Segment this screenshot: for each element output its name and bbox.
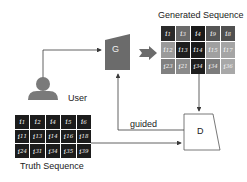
- sequence-cell: i8: [221, 26, 235, 41]
- sequence-cell: i9: [206, 26, 220, 41]
- sequence-cell: i4: [191, 26, 205, 41]
- sequence-cell: i1: [161, 26, 175, 41]
- sequence-cell: i12: [161, 42, 175, 57]
- sequence-cell: i16: [61, 130, 75, 144]
- sequence-cell: i35: [61, 144, 75, 158]
- sequence-cell: i24: [15, 144, 29, 158]
- sequence-cell: i34: [46, 144, 60, 158]
- user-label: User: [68, 93, 87, 103]
- discriminator-label: D: [197, 126, 204, 136]
- sequence-cell: i6: [77, 115, 91, 129]
- user-icon: [28, 77, 58, 100]
- sequence-cell: i39: [77, 144, 91, 158]
- guided-label: guided: [130, 119, 157, 129]
- sequence-cell: i1: [15, 115, 29, 129]
- user-to-generator-arrow: [43, 50, 101, 80]
- sequence-cell: i15: [206, 42, 220, 57]
- sequence-cell: i17: [221, 42, 235, 57]
- truth-sequence-title: Truth Sequence: [20, 161, 84, 171]
- generated-sequence-title: Generated Sequence: [158, 10, 244, 20]
- sequence-cell: i14: [191, 42, 205, 57]
- sequence-cell: i21: [176, 59, 190, 74]
- sequence-cell: i5: [61, 115, 75, 129]
- generated-sequence-grid: i1i3i4i9i8i12i13i14i15i17i23i21i34i34i36: [161, 26, 235, 74]
- sequence-cell: i34: [191, 59, 205, 74]
- sequence-cell: i36: [221, 59, 235, 74]
- fat-arrow-icon: [139, 46, 157, 60]
- sequence-cell: i4: [46, 115, 60, 129]
- sequence-cell: i13: [176, 42, 190, 57]
- sequence-cell: i3: [176, 26, 190, 41]
- sequence-cell: i31: [30, 144, 44, 158]
- generator-label: G: [112, 44, 119, 54]
- sequence-cell: i23: [161, 59, 175, 74]
- sequence-cell: i2: [30, 115, 44, 129]
- sequence-cell: i13: [30, 130, 44, 144]
- sequence-cell: i11: [15, 130, 29, 144]
- truth-sequence-grid: i1i2i4i5i6i11i13i14i16i18i24i31i34i35i39: [15, 115, 91, 158]
- sequence-cell: i34: [206, 59, 220, 74]
- sequence-cell: i18: [77, 130, 91, 144]
- sequence-cell: i14: [46, 130, 60, 144]
